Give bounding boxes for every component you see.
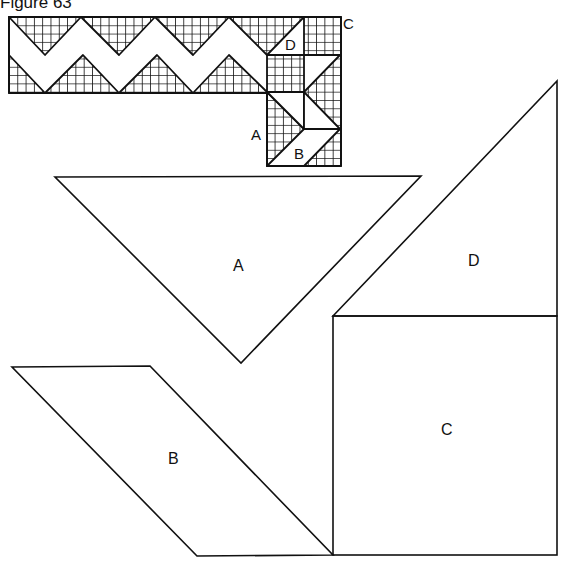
pattern-figure: D C A B A D C B	[0, 0, 563, 570]
pattern-piece-d	[333, 81, 557, 316]
block-label-c: C	[343, 15, 354, 32]
block-label-a: A	[251, 126, 261, 143]
block-label-d: D	[285, 36, 296, 53]
piece-label-b: B	[168, 450, 179, 467]
quilt-block: D C A B	[9, 15, 354, 166]
piece-label-c: C	[441, 421, 453, 438]
piece-label-a: A	[233, 257, 244, 274]
piece-label-d: D	[468, 252, 480, 269]
block-label-b: B	[294, 145, 304, 162]
